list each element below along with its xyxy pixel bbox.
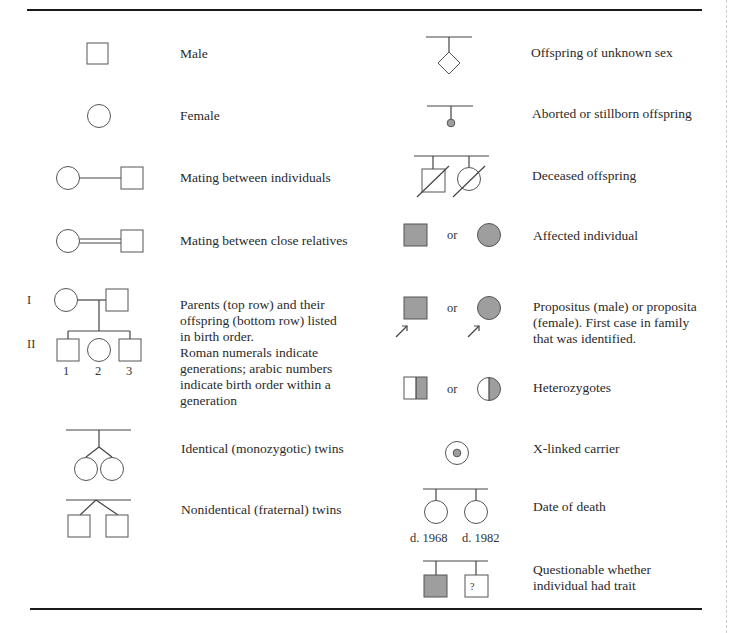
legend-label-affected: Affected individual	[533, 228, 638, 244]
death-date-2: d. 1982	[462, 531, 500, 546]
legend-label-questionable: Questionable whether individual had trai…	[533, 562, 651, 594]
small-dot-icon	[427, 105, 477, 135]
legend-label-date-of-death: Date of death	[533, 499, 606, 515]
double-mating-line-icon	[55, 228, 147, 254]
legend-label-female: Female	[180, 108, 220, 124]
legend-label-aborted: Aborted or stillborn offspring	[532, 106, 692, 122]
pedigree-family-icon	[54, 288, 146, 360]
square-icon	[86, 42, 110, 66]
circle-icon	[86, 103, 112, 129]
or-text-heterozygotes: or	[447, 382, 457, 397]
generation-label-ii: II	[27, 337, 35, 352]
mating-line-icon	[55, 165, 147, 191]
legend-label-male: Male	[180, 46, 208, 62]
legend-label-heterozygotes: Heterozygotes	[533, 380, 611, 396]
generation-label-i: I	[27, 293, 31, 308]
filled-square-icon	[403, 223, 429, 249]
filled-circle-icon	[476, 222, 502, 248]
legend-label-propositus: Propositus (male) or proposita (female).…	[533, 299, 697, 347]
arrowed-filled-square-icon	[395, 296, 431, 340]
page-edge-divider	[726, 0, 727, 633]
top-rule	[27, 9, 702, 11]
legend-label-mating: Mating between individuals	[180, 170, 331, 186]
dated-circles-icon	[423, 488, 491, 536]
legend-label-consanguineous: Mating between close relatives	[180, 233, 348, 249]
half-filled-circle-icon	[476, 376, 502, 402]
death-date-1: d. 1968	[410, 531, 448, 546]
or-text-affected: or	[447, 228, 457, 243]
legend-label-unknown-sex: Offspring of unknown sex	[531, 45, 673, 61]
or-text-propositus: or	[447, 301, 457, 316]
bottom-rule	[30, 608, 702, 610]
slashed-symbols-icon	[414, 155, 494, 201]
dizygotic-twins-icon	[66, 499, 134, 549]
legend-label-parents-offspring: Parents (top row) and their offspring (b…	[180, 297, 337, 409]
legend-label-deceased: Deceased offspring	[532, 168, 636, 184]
dotted-circle-icon	[444, 440, 470, 466]
question-mark: ?	[470, 581, 474, 592]
half-filled-square-icon	[403, 376, 429, 402]
question-square-icon	[423, 560, 491, 606]
diamond-icon	[426, 36, 476, 82]
legend-label-fraternal-twins: Nonidentical (fraternal) twins	[181, 502, 341, 518]
monozygotic-twins-icon	[66, 429, 134, 485]
legend-label-x-linked-carrier: X-linked carrier	[533, 441, 620, 457]
birth-order-2: 2	[95, 364, 101, 379]
birth-order-3: 3	[126, 364, 132, 379]
birth-order-1: 1	[63, 364, 69, 379]
arrowed-filled-circle-icon	[467, 295, 507, 341]
legend-label-identical-twins: Identical (monozygotic) twins	[181, 441, 344, 457]
